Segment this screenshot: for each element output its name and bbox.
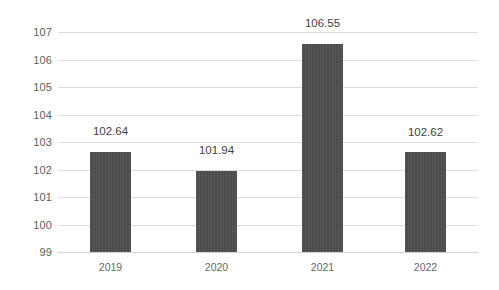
y-axis: 107 106 105 104 103 102 101 100 99 [0,32,52,252]
data-label-2022: 102.62 [408,126,443,138]
gridline [58,60,478,61]
gridline [58,32,478,33]
gridline [58,87,478,88]
y-axis-tick-label: 101 [6,192,52,203]
bar-2020 [196,171,237,252]
category-label-2022: 2022 [414,261,437,273]
y-axis-tick-label: 107 [6,27,52,38]
data-label-2019: 102.64 [93,125,128,137]
y-axis-tick-label: 99 [6,247,52,258]
bar-2019 [90,152,131,252]
category-label-2021: 2021 [311,261,334,273]
gridline [58,142,478,143]
y-axis-tick-label: 105 [6,82,52,93]
y-axis-tick-label: 102 [6,165,52,176]
y-axis-tick-label: 100 [6,220,52,231]
category-label-2020: 2020 [205,261,228,273]
category-label-2019: 2019 [99,261,122,273]
gridline-baseline [58,252,478,253]
bar-chart: 107 106 105 104 103 102 101 100 99 102.6… [0,0,499,290]
bar-2022 [405,152,446,252]
y-axis-tick-label: 106 [6,55,52,66]
plot-area [58,32,478,252]
y-axis-tick-label: 104 [6,110,52,121]
y-axis-tick-label: 103 [6,137,52,148]
data-label-2020: 101.94 [199,144,234,156]
gridline [58,115,478,116]
data-label-2021: 106.55 [305,17,340,29]
bar-2021 [302,44,343,252]
